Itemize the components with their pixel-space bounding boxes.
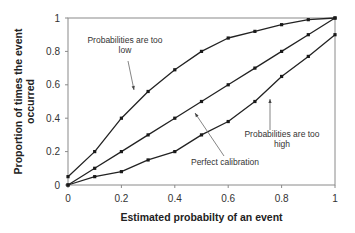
data-point-marker (227, 83, 230, 86)
annotation-perfect-calibration: Perfect calibration (191, 113, 259, 167)
data-point-marker (200, 133, 203, 136)
data-point-marker (253, 100, 256, 103)
data-point-marker (147, 90, 150, 93)
x-tick-label: 0.6 (221, 193, 235, 204)
arrowhead-icon (195, 113, 199, 117)
annotation-text: Probabilities are too (244, 129, 319, 139)
data-point-marker (147, 158, 150, 161)
data-point-marker (200, 100, 203, 103)
y-tick-label: 0.8 (46, 46, 60, 57)
data-point-marker (280, 50, 283, 53)
data-point-marker (93, 175, 96, 178)
data-point-marker (280, 23, 283, 26)
data-point-marker (200, 50, 203, 53)
data-point-marker (173, 68, 176, 71)
data-point-marker (307, 55, 310, 58)
annotation-text: Perfect calibration (191, 157, 259, 167)
annotation-text: Probabilities are too (87, 35, 162, 45)
data-point-marker (253, 30, 256, 33)
annotation-text: low (119, 45, 133, 55)
data-point-marker (93, 167, 96, 170)
annotations: Probabilities are toolowPerfect calibrat… (87, 35, 319, 167)
x-axis-title: Estimated probabilty of an event (120, 211, 283, 223)
data-point-marker (93, 150, 96, 153)
data-point-marker (333, 33, 336, 36)
x-tick-label: 0.8 (275, 193, 289, 204)
y-axis-title-line: occurred (24, 79, 36, 124)
arrowhead-icon (132, 86, 135, 90)
y-tick-label: 1 (54, 13, 60, 24)
data-point-marker (227, 120, 230, 123)
data-point-marker (66, 175, 69, 178)
annotation-text: high (274, 139, 290, 149)
y-axis-title: Proportion of times the eventoccurred (12, 28, 36, 174)
data-point-marker (120, 117, 123, 120)
data-point-marker (147, 133, 150, 136)
data-point-marker (253, 67, 256, 70)
data-point-marker (307, 18, 310, 21)
x-tick-label: 0.2 (114, 193, 128, 204)
axis-labels: Estimated probabilty of an eventProporti… (12, 28, 283, 223)
annotation-too-low: Probabilities are toolow (87, 35, 162, 90)
y-tick-label: 0.2 (46, 146, 60, 157)
y-axis-title-line: Proportion of times the event (12, 28, 24, 174)
y-tick-label: 0 (54, 180, 60, 191)
x-tick-label: 0 (65, 193, 71, 204)
y-tick-label: 0.6 (46, 79, 60, 90)
data-point-marker (120, 170, 123, 173)
data-point-marker (66, 183, 69, 186)
annotation-arrow-line (128, 61, 134, 90)
x-tick-label: 0.4 (168, 193, 182, 204)
data-point-marker (307, 33, 310, 36)
y-tick-label: 0.4 (46, 113, 60, 124)
data-point-marker (120, 150, 123, 153)
data-point-marker (227, 36, 230, 39)
data-point-marker (280, 75, 283, 78)
data-point-marker (173, 117, 176, 120)
data-point-marker (333, 16, 336, 19)
x-tick-label: 1 (332, 193, 338, 204)
annotation-too-high: Probabilities are toohigh (244, 99, 319, 149)
arrowhead-icon (268, 99, 271, 103)
data-point-marker (173, 150, 176, 153)
annotation-arrow-line (195, 113, 224, 156)
calibration-chart: 00.20.40.60.8100.20.40.60.81 Probabiliti… (0, 0, 355, 233)
